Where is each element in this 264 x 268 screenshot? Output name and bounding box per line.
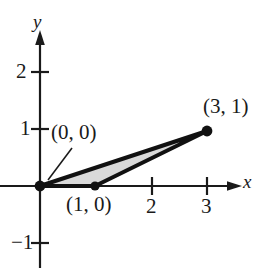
point-label-three-one: (3, 1) bbox=[203, 96, 249, 117]
y-tick-label-neg1: −1 bbox=[11, 232, 33, 253]
y-axis bbox=[35, 30, 45, 268]
y-axis-label: y bbox=[33, 12, 41, 31]
x-axis-arrow-icon bbox=[227, 181, 242, 191]
y-tick-label-1: 1 bbox=[20, 118, 31, 139]
x-tick-label-3: 3 bbox=[201, 196, 212, 217]
figure-canvas: y x 2 1 −1 2 3 (0, 0) (1, 0) (3, 1) bbox=[0, 0, 264, 268]
x-tick-label-2: 2 bbox=[146, 196, 157, 217]
y-axis-arrow-icon bbox=[35, 30, 45, 45]
y-tick-label-2: 2 bbox=[16, 61, 27, 82]
point-label-one-zero: (1, 0) bbox=[66, 194, 112, 215]
coordinate-plot bbox=[0, 0, 264, 268]
x-axis-label: x bbox=[243, 172, 251, 191]
point-marker-one-zero bbox=[90, 181, 99, 190]
point-marker-three-one bbox=[202, 126, 213, 137]
point-marker-origin bbox=[35, 181, 46, 192]
point-label-origin: (0, 0) bbox=[51, 122, 97, 143]
